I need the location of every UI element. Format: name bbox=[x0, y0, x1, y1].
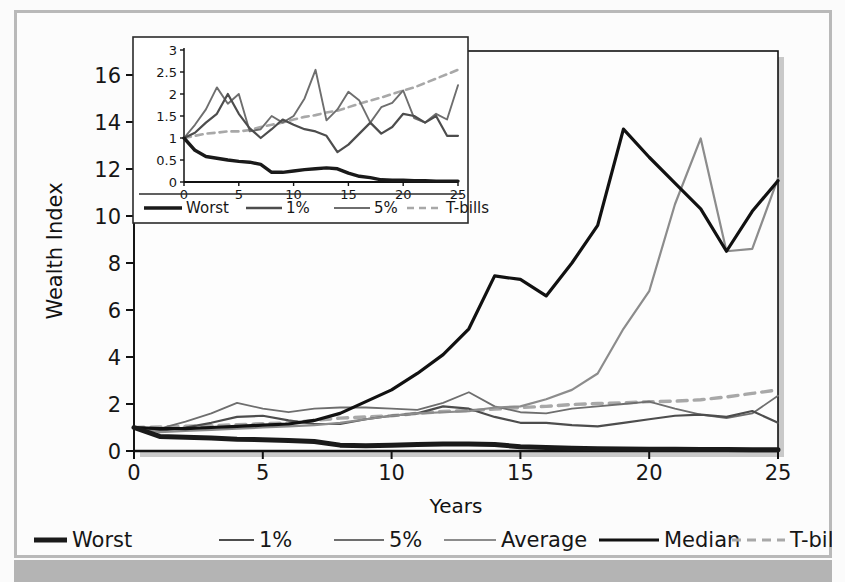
y-tick-label: 8 bbox=[108, 252, 121, 276]
main-legend: Worst1%5%AverageMedianT-bills bbox=[34, 528, 832, 552]
y-tick-label: 0.5 bbox=[156, 153, 177, 168]
y-tick-label: 2 bbox=[108, 393, 121, 417]
legend-label-1-: 1% bbox=[259, 528, 292, 552]
main-y-tick-group: 0246810121416 bbox=[94, 64, 134, 464]
y-tick-label: 1.5 bbox=[156, 109, 177, 124]
page-bottom-bar bbox=[14, 560, 832, 582]
y-axis-title: Wealth Index bbox=[43, 182, 67, 319]
x-tick-label: 0 bbox=[127, 461, 140, 485]
y-tick-label: 0 bbox=[169, 175, 177, 190]
inset-legend-label-worst: Worst bbox=[186, 199, 229, 217]
legend-label-median: Median bbox=[664, 528, 740, 552]
x-axis-title: Years bbox=[429, 494, 483, 518]
main-y-axis: 0246810121416 bbox=[94, 51, 134, 464]
legend-label-t-bills: T-bills bbox=[789, 528, 832, 552]
y-tick-label: 1 bbox=[169, 131, 177, 146]
y-tick-label: 4 bbox=[108, 346, 121, 370]
y-tick-label: 10 bbox=[94, 205, 121, 229]
page-root: 0246810121416 0510152025 Wealth Index Ye… bbox=[0, 0, 845, 582]
y-tick-label: 3 bbox=[169, 43, 177, 58]
x-tick-label: 15 bbox=[507, 461, 534, 485]
chart-figure: 0246810121416 0510152025 Wealth Index Ye… bbox=[14, 10, 832, 558]
x-tick-label: 20 bbox=[636, 461, 663, 485]
y-tick-label: 2 bbox=[169, 87, 177, 102]
legend-label-5-: 5% bbox=[389, 528, 422, 552]
y-tick-label: 12 bbox=[94, 158, 121, 182]
y-tick-label: 14 bbox=[94, 111, 121, 135]
inset-legend-label-t-bills: T-bills bbox=[445, 199, 489, 217]
legend-label-average: Average bbox=[501, 528, 587, 552]
inset-legend-label-5-: 5% bbox=[374, 199, 398, 217]
inset-plot: 00.511.522.53 0510152025 Worst1%5%T-bill… bbox=[133, 37, 489, 223]
x-tick-label: 5 bbox=[256, 461, 269, 485]
inset-legend-label-1-: 1% bbox=[286, 199, 310, 217]
y-tick-label: 16 bbox=[94, 64, 121, 88]
y-tick-label: 6 bbox=[108, 299, 121, 323]
x-tick-label: 10 bbox=[378, 461, 405, 485]
chart-canvas: 0246810121416 0510152025 Wealth Index Ye… bbox=[14, 10, 832, 558]
x-tick-label: 25 bbox=[765, 461, 792, 485]
y-tick-label: 0 bbox=[108, 440, 121, 464]
y-tick-label: 2.5 bbox=[156, 65, 177, 80]
legend-label-worst: Worst bbox=[72, 528, 132, 552]
